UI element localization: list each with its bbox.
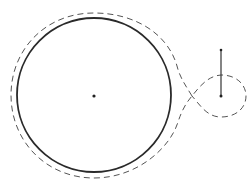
vector-tip-point [220,49,223,52]
diagram-canvas [0,0,252,188]
small-loop-center-point [220,95,223,98]
outer-dashed-curve [11,13,246,178]
center-point [92,94,95,97]
